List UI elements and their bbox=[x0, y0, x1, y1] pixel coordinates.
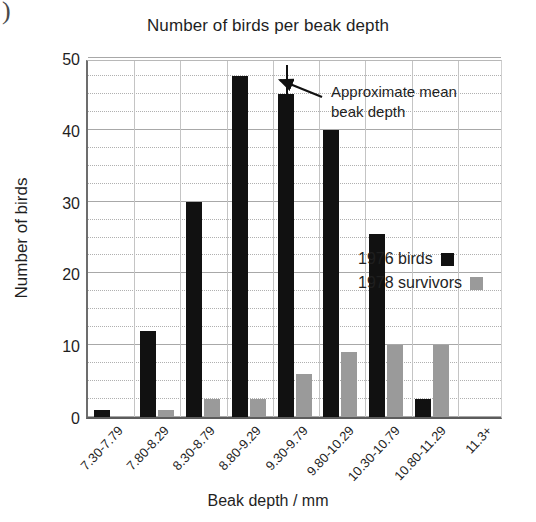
bar-group bbox=[455, 61, 501, 417]
bar-group bbox=[134, 61, 180, 417]
x-tick-label: 8.30-8.79 bbox=[170, 423, 218, 473]
bar-birds-1976 bbox=[232, 76, 248, 417]
bar-group bbox=[88, 61, 134, 417]
y-tick-label: 40 bbox=[34, 123, 80, 141]
bar-survivors-1978 bbox=[204, 399, 220, 417]
y-axis-tick-labels: 01020304050 bbox=[32, 60, 80, 419]
legend-item: 1976 birds bbox=[358, 247, 483, 271]
bar-survivors-1978 bbox=[158, 410, 174, 417]
bar-survivors-1978 bbox=[433, 345, 449, 417]
legend-item: 1978 survivors bbox=[358, 271, 483, 295]
y-tick-label: 0 bbox=[34, 410, 80, 428]
gridline-major-y bbox=[88, 57, 501, 58]
bar-survivors-1978 bbox=[250, 399, 266, 417]
annotation-line-2: beak depth bbox=[331, 102, 457, 122]
y-tick-label: 30 bbox=[34, 195, 80, 213]
x-axis-tick-labels: 7.30-7.797.80-8.298.30-8.798.80-9.299.30… bbox=[86, 421, 502, 491]
bar-birds-1976 bbox=[186, 202, 202, 417]
chart-title: Number of birds per beak depth bbox=[0, 16, 536, 36]
chart-figure: ) Number of birds per beak depth Number … bbox=[0, 0, 536, 522]
bar-birds-1976 bbox=[94, 410, 110, 417]
bar-birds-1976 bbox=[323, 130, 339, 417]
x-tick-label: 7.80-8.29 bbox=[123, 423, 171, 473]
x-tick-label: 8.80-9.29 bbox=[216, 423, 264, 473]
bar-group bbox=[272, 61, 318, 417]
x-tick-label: 11.3+ bbox=[463, 423, 496, 457]
x-tick-label: 7.30-7.79 bbox=[77, 423, 125, 473]
legend-label: 1976 birds bbox=[358, 250, 433, 268]
bar-birds-1976 bbox=[140, 331, 156, 417]
bar-group bbox=[226, 61, 272, 417]
legend-label: 1978 survivors bbox=[358, 274, 462, 292]
legend-swatch bbox=[441, 253, 454, 266]
bar-survivors-1978 bbox=[387, 345, 403, 417]
bar-survivors-1978 bbox=[296, 374, 312, 417]
legend: 1976 birds1978 survivors bbox=[358, 247, 483, 295]
x-tick-label: 9.30-9.79 bbox=[262, 423, 310, 473]
mean-beak-depth-marker bbox=[286, 65, 288, 417]
y-tick-label: 20 bbox=[34, 266, 80, 284]
y-axis-title-text: Number of birds bbox=[12, 177, 32, 298]
x-axis-title: Beak depth / mm bbox=[0, 492, 536, 510]
legend-swatch bbox=[470, 277, 483, 290]
y-tick-label: 10 bbox=[34, 338, 80, 356]
bar-birds-1976 bbox=[415, 399, 431, 417]
y-tick-label: 50 bbox=[34, 51, 80, 69]
bar-group bbox=[180, 61, 226, 417]
annotation-line-1: Approximate mean bbox=[331, 82, 457, 102]
annotation-mean-beak-depth: Approximate mean beak depth bbox=[331, 82, 457, 123]
bar-survivors-1978 bbox=[341, 352, 357, 417]
